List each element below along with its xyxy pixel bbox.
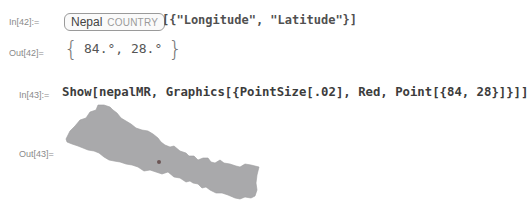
output-label-43: Out[43]=: [19, 149, 54, 159]
output-label-42: Out[42]=: [9, 48, 44, 58]
red-point-marker: [157, 160, 161, 164]
output-values: 84.°, 28.°: [84, 41, 162, 56]
entity-name: Nepal: [71, 15, 102, 29]
entity-badge-nepal[interactable]: Nepal COUNTRY: [64, 13, 165, 31]
input-code-42[interactable]: [{"Longitude", "Latitude"}]: [162, 13, 357, 27]
nepal-map-graphic: [55, 100, 275, 205]
nepal-shape: [66, 105, 259, 199]
entity-type: COUNTRY: [107, 17, 158, 28]
open-brace: {: [64, 36, 78, 61]
output-42: { 84.°, 28.° }: [64, 36, 182, 61]
close-brace: }: [168, 36, 182, 61]
input-label-43: In[43]:=: [19, 90, 49, 100]
input-label-42: In[42]:=: [9, 17, 39, 27]
input-code-43[interactable]: Show[nepalMR, Graphics[{PointSize[.02], …: [62, 85, 528, 99]
